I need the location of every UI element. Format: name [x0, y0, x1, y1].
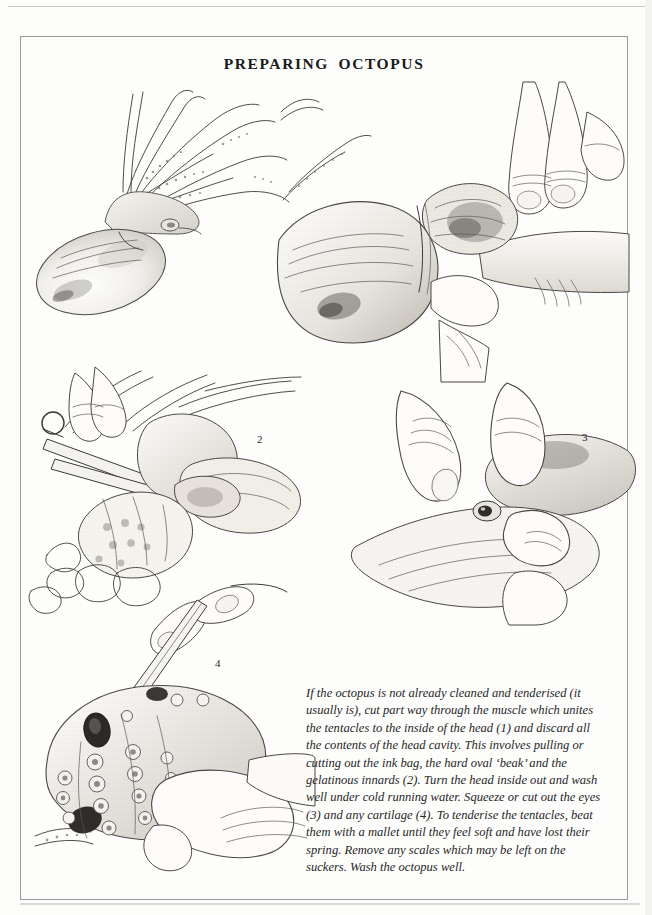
- figure-4-knife-cartilage: 4: [35, 582, 315, 882]
- figure-3-number: 3: [582, 431, 588, 443]
- scan-edge-right: [645, 0, 652, 915]
- instruction-caption: If the octopus is not already cleaned an…: [306, 685, 604, 876]
- figure-4-number: 4: [215, 657, 221, 669]
- scan-rule-bottom: [20, 903, 640, 905]
- illustration-page: PREPARING OCTOPUS: [0, 0, 652, 915]
- page-frame: PREPARING OCTOPUS: [20, 36, 628, 900]
- figure-2-scissors-cutting: 2: [29, 367, 319, 617]
- figure-1-octopus-whole: 1: [27, 82, 297, 312]
- figure-3-squeezing-eye: 3: [339, 377, 639, 627]
- figure-1-hands-pulling-head: [279, 82, 629, 382]
- figure-2-number: 2: [257, 433, 263, 445]
- scan-rule-top: [8, 6, 648, 7]
- caption-text: If the octopus is not already cleaned an…: [306, 685, 604, 876]
- page-title: PREPARING OCTOPUS: [21, 55, 627, 73]
